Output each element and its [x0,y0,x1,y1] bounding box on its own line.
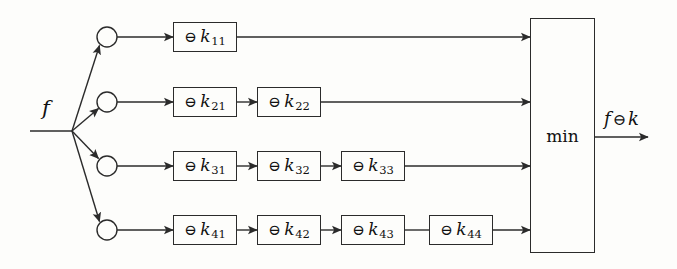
kernel-subscript: 31 [211,163,226,177]
kernel-var: k [281,219,295,239]
erosion-symbol: ⊖ [268,157,281,175]
kernel-var: k [365,219,379,239]
erosion-box-k33-label: ⊖k33 [352,155,394,177]
kernel-subscript: 43 [379,227,394,241]
branch-node-circle-4 [97,220,117,240]
kernel-var: k [453,219,467,239]
erosion-box-k21-label: ⊖k21 [184,91,226,113]
erosion-symbol: ⊖ [440,221,453,239]
erosion-box-k43-label: ⊖k43 [352,219,394,241]
kernel-subscript: 33 [379,163,394,177]
kernel-var: k [197,26,211,46]
kernel-var: k [365,155,379,175]
erosion-box-k33[interactable]: ⊖k33 [341,151,405,181]
erosion-box-k41[interactable]: ⊖k41 [173,215,237,245]
kernel-subscript: 42 [295,227,310,241]
fanout-wire-1 [72,46,100,132]
erosion-box-k11[interactable]: ⊖k11 [173,22,237,52]
erosion-box-k44[interactable]: ⊖k44 [429,215,493,245]
erosion-symbol: ⊖ [184,28,197,46]
min-block[interactable]: min [530,18,595,253]
erosion-box-k11-label: ⊖k11 [184,26,226,48]
erosion-box-k22-label: ⊖k22 [268,91,310,113]
kernel-var: k [281,91,295,111]
erosion-box-k42-label: ⊖k42 [268,219,310,241]
kernel-var: k [197,155,211,175]
erosion-box-k42[interactable]: ⊖k42 [257,215,321,245]
erosion-symbol: ⊖ [184,157,197,175]
kernel-subscript: 44 [467,227,482,241]
input-label: f [42,96,50,120]
min-block-label: min [546,126,579,146]
erosion-box-k22[interactable]: ⊖k22 [257,87,321,117]
erosion-symbol: ⊖ [352,157,365,175]
erosion-box-k41-label: ⊖k41 [184,219,226,241]
output-label: f⊖k [604,108,639,129]
erosion-box-k31-label: ⊖k31 [184,155,226,177]
kernel-subscript: 11 [211,34,226,48]
erosion-symbol: ⊖ [268,93,281,111]
output-operator: ⊖ [611,110,628,129]
erosion-box-k21[interactable]: ⊖k21 [173,87,237,117]
output-kernel: k [628,108,639,129]
erosion-symbol: ⊖ [184,93,197,111]
output-operand: f [604,108,611,129]
erosion-symbol: ⊖ [184,221,197,239]
kernel-subscript: 22 [295,99,310,113]
erosion-box-k44-label: ⊖k44 [440,219,482,241]
erosion-box-k31[interactable]: ⊖k31 [173,151,237,181]
diagram-canvas: f ⊖k11 ⊖k21 ⊖k22 ⊖k31 ⊖k32 ⊖k33 ⊖k41 ⊖k4… [0,0,677,269]
erosion-symbol: ⊖ [268,221,281,239]
kernel-var: k [281,155,295,175]
kernel-var: k [197,91,211,111]
kernel-var: k [197,219,211,239]
kernel-subscript: 41 [211,227,226,241]
branch-node-circle-1 [97,27,117,47]
branch-node-circle-2 [97,92,117,112]
erosion-box-k32-label: ⊖k32 [268,155,310,177]
branch-node-circle-3 [97,156,117,176]
kernel-subscript: 21 [211,99,226,113]
kernel-subscript: 32 [295,163,310,177]
erosion-box-k43[interactable]: ⊖k43 [341,215,405,245]
erosion-box-k32[interactable]: ⊖k32 [257,151,321,181]
erosion-symbol: ⊖ [352,221,365,239]
